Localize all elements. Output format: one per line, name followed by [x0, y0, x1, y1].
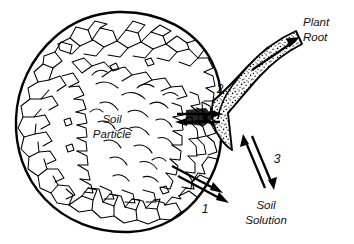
callout-label-2: 2: [216, 82, 224, 96]
soil-particle-label-line2: Particle: [93, 128, 131, 140]
plant-root-label-line1: Plant: [303, 16, 330, 28]
plant-root-label-line2: Root: [303, 31, 328, 43]
callout-label-1: 1: [202, 202, 209, 216]
soil-nutrient-diagram: Plant Root Soil Particle Soil Solution 1…: [0, 0, 354, 244]
diagram-canvas: Plant Root Soil Particle Soil Solution 1…: [0, 0, 354, 244]
soil-particle-label-line1: Soil: [102, 113, 122, 125]
callout-label-3: 3: [274, 152, 281, 166]
soil-solution-label-line2: Solution: [245, 214, 287, 226]
soil-solution-label-line1: Soil: [256, 199, 276, 211]
